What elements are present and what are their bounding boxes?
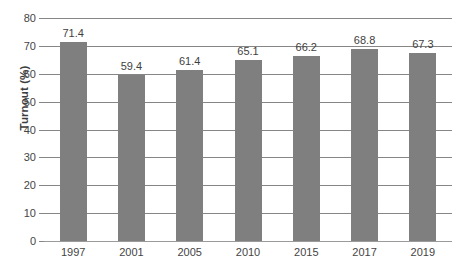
y-axis-tick-mark — [39, 130, 44, 131]
bar-value-label: 66.2 — [296, 41, 317, 53]
y-axis-tick-label: 50 — [24, 96, 36, 108]
y-axis-tick-mark — [39, 157, 44, 158]
bar-value-label: 61.4 — [179, 55, 200, 67]
bar: 67.32019 — [409, 53, 436, 241]
x-axis-tick-label: 2001 — [119, 246, 143, 258]
plot-area: 8070605040302010071.4199759.4200161.4200… — [44, 18, 452, 241]
bar: 68.82017 — [351, 49, 378, 241]
y-axis-tick-mark — [39, 46, 44, 47]
bar: 65.12010 — [235, 60, 262, 241]
y-axis-tick-label: 0 — [30, 235, 36, 247]
bar: 71.41997 — [60, 42, 87, 241]
x-axis-tick-label: 2015 — [294, 246, 318, 258]
x-axis-tick-label: 2010 — [236, 246, 260, 258]
y-axis-tick-label: 60 — [24, 68, 36, 80]
y-axis-tick-label: 20 — [24, 179, 36, 191]
bar-value-label: 67.3 — [412, 38, 433, 50]
y-axis-tick-mark — [39, 213, 44, 214]
gridline — [44, 241, 452, 242]
y-axis-tick-label: 40 — [24, 124, 36, 136]
bar-value-label: 65.1 — [237, 45, 258, 57]
y-axis-tick-mark — [39, 102, 44, 103]
x-axis-tick-label: 1997 — [61, 246, 85, 258]
bar: 59.42001 — [118, 75, 145, 241]
bar: 66.22015 — [293, 56, 320, 241]
figure-caption — [0, 267, 465, 277]
y-axis-tick-label: 80 — [24, 12, 36, 24]
y-axis-tick-label: 30 — [24, 151, 36, 163]
x-axis-tick-label: 2017 — [352, 246, 376, 258]
x-axis-tick-label: 2019 — [411, 246, 435, 258]
gridline — [44, 18, 452, 19]
y-axis-tick-mark — [39, 241, 44, 242]
y-axis-tick-mark — [39, 18, 44, 19]
y-axis-tick-label: 10 — [24, 207, 36, 219]
y-axis-tick-mark — [39, 74, 44, 75]
bar: 61.42005 — [176, 70, 203, 241]
bar-value-label: 68.8 — [354, 34, 375, 46]
y-axis-tick-label: 70 — [24, 40, 36, 52]
y-axis-tick-mark — [39, 185, 44, 186]
bar-value-label: 71.4 — [62, 27, 83, 39]
x-axis-tick-label: 2005 — [177, 246, 201, 258]
bar-value-label: 59.4 — [121, 60, 142, 72]
bar-chart-figure: Turnout (%) 8070605040302010071.4199759.… — [0, 0, 465, 277]
